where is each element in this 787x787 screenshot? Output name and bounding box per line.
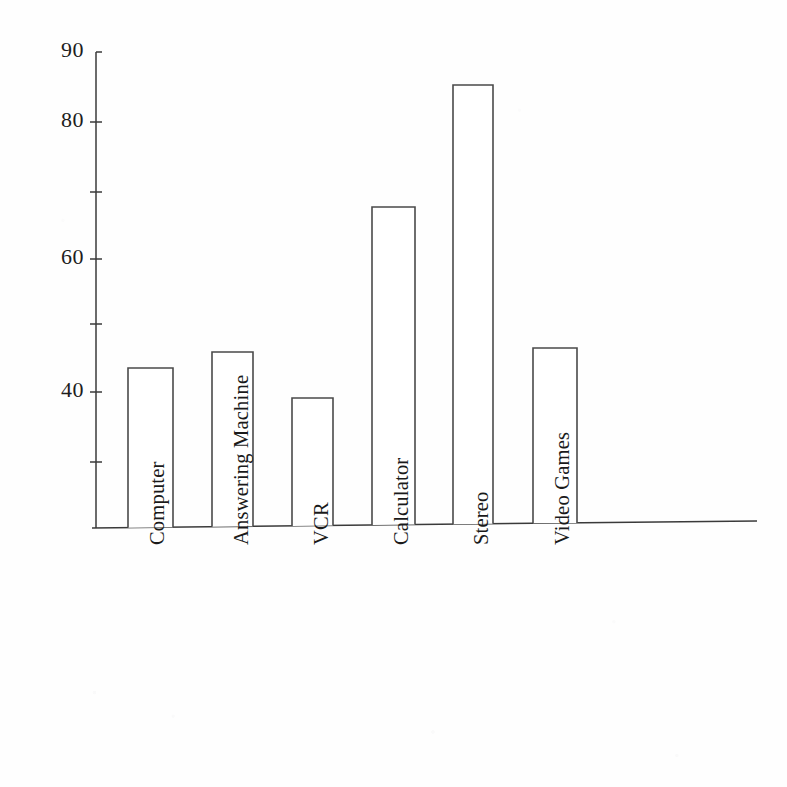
x-axis-category-label: Answering Machine xyxy=(230,375,253,545)
y-axis-tick-label: 60 xyxy=(61,244,84,270)
x-axis-category-label: Computer xyxy=(146,461,169,545)
chart-plot-area xyxy=(0,0,787,787)
x-axis-line xyxy=(92,521,757,528)
y-axis-tick-label: 40 xyxy=(61,377,84,403)
x-axis-category-label: Stereo xyxy=(470,491,493,545)
bars-group xyxy=(128,85,577,528)
x-axis-category-label: Calculator xyxy=(390,458,413,545)
bar-chart-page: 90806040 ComputerAnswering MachineVCRCal… xyxy=(0,0,787,787)
x-axis-category-label: VCR xyxy=(310,502,333,545)
axes-group xyxy=(92,52,757,528)
y-axis-tick-label: 90 xyxy=(61,37,84,63)
y-axis-tick-label: 80 xyxy=(61,107,84,133)
bar[interactable] xyxy=(453,85,493,524)
x-axis-category-label: Video Games xyxy=(551,432,574,545)
